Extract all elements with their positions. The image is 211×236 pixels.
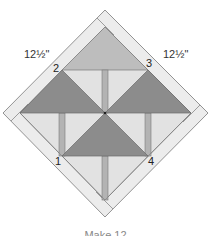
corner-number-3: 3 [146, 58, 152, 69]
caption: Make 12 [0, 229, 211, 236]
corner-number-4: 4 [148, 156, 154, 167]
stem-left [59, 113, 65, 156]
dimension-label-right: 12½" [163, 49, 188, 60]
corner-number-1: 1 [55, 156, 61, 167]
stem-top [102, 70, 108, 113]
stem-right [145, 113, 151, 156]
stem-bottom [102, 156, 108, 200]
corner-number-2: 2 [53, 63, 59, 74]
center-point [104, 112, 107, 115]
dimension-label-left: 12½" [24, 49, 49, 60]
quilt-block-diagram [0, 0, 211, 236]
